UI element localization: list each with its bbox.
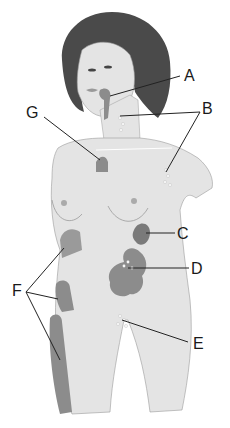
label-d: D (191, 261, 203, 277)
eye-right (104, 65, 112, 68)
leader-f2 (26, 292, 58, 299)
label-e: E (193, 336, 204, 352)
eye-left (88, 68, 96, 71)
label-f: F (12, 283, 22, 299)
label-c: C (177, 226, 189, 242)
label-g: G (26, 105, 38, 121)
label-b: B (202, 101, 213, 117)
lymphatic-diagram (0, 0, 230, 428)
label-a: A (184, 68, 195, 84)
nipple-left (61, 200, 67, 206)
nipple-right (131, 198, 137, 204)
